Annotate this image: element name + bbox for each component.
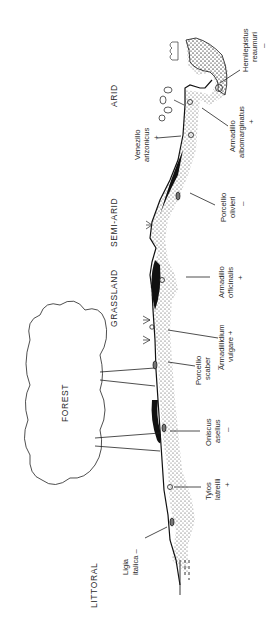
svg-text:asellus: asellus [213, 419, 222, 443]
svg-text:italica –: italica – [131, 548, 140, 575]
species-label-armadillidium: Armadillidium vulgare + [217, 324, 235, 370]
svg-text:Armadillo: Armadillo [217, 266, 226, 298]
svg-text:Ligia: Ligia [121, 558, 130, 575]
svg-text:+: + [247, 119, 256, 124]
svg-text:Porcellio: Porcellio [194, 356, 203, 385]
species-label-porcellio-olivieri: Porcellio olivieri – [219, 193, 247, 222]
svg-text:Hemilepistus: Hemilepistus [241, 28, 250, 72]
svg-text:olivieri: olivieri [228, 196, 237, 218]
svg-text:+: + [152, 135, 161, 140]
isopod-habitat-transect-diagram: LITTORAL FOREST GRASSLAND SEMI-ARID ARID… [0, 0, 266, 641]
species-label-hemilepistus: Hemilepistus reaumuri – [241, 28, 266, 72]
svg-text:officinalis: officinalis [226, 267, 235, 298]
svg-text:Armadillidium: Armadillidium [217, 324, 226, 370]
arid-shrub [170, 42, 178, 60]
svg-text:reaumuri: reaumuri [250, 32, 259, 62]
species-label-armadillo-officinalis: Armadillo officinalis + [217, 266, 245, 298]
svg-text:vulgare +: vulgare + [226, 330, 235, 362]
svg-text:Porcellio: Porcellio [219, 193, 228, 222]
svg-text:latreilli: latreilli [213, 478, 222, 500]
zone-label-littoral: LITTORAL [89, 563, 99, 608]
zone-label-grassland: GRASSLAND [109, 269, 119, 327]
svg-text:arizonicus: arizonicus [142, 128, 151, 162]
svg-text:Oniscus: Oniscus [204, 418, 213, 446]
species-label-oniscus: Oniscus asellus – [204, 418, 232, 446]
zone-label-forest: FOREST [60, 384, 70, 422]
forest-trees [24, 301, 160, 485]
svg-text:scaber: scaber [203, 357, 212, 380]
species-label-ligia: Ligia italica – [121, 548, 140, 575]
svg-text:Armadillo: Armadillo [228, 120, 237, 152]
cactus-icon [159, 87, 184, 121]
svg-text:+: + [223, 482, 232, 487]
svg-text:Tylos: Tylos [204, 482, 213, 500]
svg-text:albomarginatus: albomarginatus [237, 106, 246, 158]
species-label-venezillo: Venezillo arizonicus + [133, 128, 161, 162]
svg-text:–: – [259, 43, 266, 48]
species-label-armadillo-albomarginatus: Armadillo albomarginatus + [228, 106, 256, 158]
species-label-tylos: Tylos latreilli + [204, 478, 232, 500]
zone-label-semi-arid: SEMI-ARID [109, 198, 119, 247]
svg-text:Venezillo: Venezillo [133, 130, 142, 160]
svg-text:–: – [223, 427, 232, 432]
svg-text:+: + [236, 275, 245, 280]
svg-text:–: – [238, 201, 247, 206]
zone-label-arid: ARID [109, 84, 119, 107]
